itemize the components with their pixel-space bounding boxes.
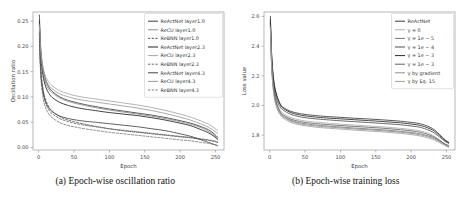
legend-label-1: ReCU layer1.0 — [161, 27, 196, 34]
y-axis-label: Oscillation ratio — [10, 60, 16, 102]
x-axis-label: Epoch — [351, 163, 368, 170]
legend-label-6: ReActNet layer4.3 — [161, 70, 205, 77]
legend-label-3: γ = 1e − 4 — [407, 44, 434, 51]
legend-label-7: ReCU layer4.3 — [161, 78, 196, 85]
y-tick-label: 0.05 — [17, 119, 28, 125]
legend-label-6: γ by gradient — [407, 70, 440, 77]
x-tick-label: 0 — [268, 154, 271, 160]
y-tick-label: 0.00 — [17, 144, 28, 150]
x-tick-label: 150 — [140, 154, 150, 160]
y-tick-label: 1.8 — [251, 132, 259, 138]
x-tick-label: 200 — [406, 154, 416, 160]
x-tick-label: 100 — [335, 154, 345, 160]
panel-a-oscillation-ratio: 0501001502002500.000.050.100.150.200.25E… — [0, 0, 231, 203]
legend-label-5: ReBNN layer2.3 — [161, 61, 199, 68]
legend-label-2: ReBNN layer1.0 — [161, 35, 199, 42]
x-tick-label: 200 — [176, 154, 186, 160]
x-tick-label: 50 — [71, 154, 77, 160]
x-tick-label: 250 — [211, 154, 221, 160]
x-tick-label: 250 — [441, 154, 451, 160]
y-tick-label: 0.20 — [17, 43, 28, 49]
figure-two-panel: 0501001502002500.000.050.100.150.200.25E… — [0, 0, 461, 203]
x-tick-label: 150 — [371, 154, 381, 160]
legend-label-2: γ = 1e − 5 — [407, 35, 434, 42]
y-tick-label: 0.15 — [17, 69, 28, 75]
panel-a-svg: 0501001502002500.000.050.100.150.200.25E… — [0, 0, 230, 178]
legend-label-3: ReActNet layer2.3 — [161, 44, 205, 51]
x-tick-label: 0 — [37, 154, 40, 160]
legend-label-8: ReBNN layer4.3 — [161, 87, 199, 94]
legend-label-1: γ = 0 — [407, 27, 420, 34]
y-tick-label: 2.4 — [251, 43, 259, 49]
legend-label-4: ReCU layer2.3 — [161, 52, 196, 59]
panel-a-plot-area: 0501001502002500.000.050.100.150.200.25E… — [0, 0, 230, 178]
panel-b-svg: 0501001502002501.82.02.22.42.6EpochLoss … — [231, 0, 461, 178]
y-axis-label: Loss value — [241, 66, 247, 95]
y-tick-label: 2.0 — [251, 102, 259, 108]
legend-label-0: ReActNet layer1.0 — [161, 18, 205, 25]
legend-label-7: γ by Eq. 15 — [407, 78, 435, 85]
panel-b-training-loss: 0501001502002501.82.02.22.42.6EpochLoss … — [231, 0, 461, 203]
y-tick-label: 0.25 — [17, 18, 28, 24]
x-axis-label: Epoch — [120, 163, 137, 170]
legend-label-5: γ = 1e − 3 — [407, 61, 434, 68]
y-tick-label: 2.2 — [251, 73, 259, 79]
legend-label-0: ReActNet — [407, 18, 430, 24]
y-tick-label: 0.10 — [17, 94, 28, 100]
x-tick-label: 50 — [302, 154, 308, 160]
panel-b-plot-area: 0501001502002501.82.02.22.42.6EpochLoss … — [231, 0, 461, 178]
legend-label-4: γ = 1e − 3 — [407, 52, 434, 59]
x-tick-label: 100 — [105, 154, 115, 160]
y-tick-label: 2.6 — [251, 13, 259, 19]
